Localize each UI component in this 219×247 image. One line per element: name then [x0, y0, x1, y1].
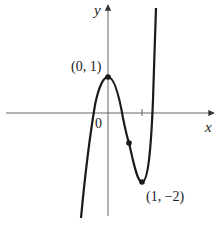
y-axis-label: y [92, 2, 101, 18]
min-point-label: (1, −2) [146, 189, 185, 205]
max-point-label: (0, 1) [71, 59, 102, 75]
chart-figure: y x 0 (0, 1) (1, −2) [0, 0, 219, 247]
cubic-graph: y x 0 (0, 1) (1, −2) [0, 0, 219, 247]
max-point-dot [105, 74, 111, 80]
inflection-point-dot [126, 140, 132, 146]
min-point-dot [139, 179, 145, 185]
x-axis-label: x [204, 119, 212, 135]
origin-label: 0 [95, 116, 102, 131]
